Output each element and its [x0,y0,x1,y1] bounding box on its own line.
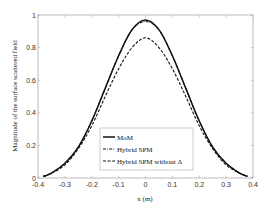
y-tick-label: 0.4 [26,109,36,116]
x-tick-label: 0.4 [248,181,258,188]
legend-label: Hybrid SPM [117,146,153,154]
y-tick-label: 0.8 [26,44,36,51]
x-tick-label: 0.2 [194,181,204,188]
y-tick-label: 1 [32,12,36,19]
legend-label: Hybrid SPM without Δ [117,158,182,166]
x-tick-label: 0.3 [221,181,231,188]
x-tick-label: 0.1 [168,181,178,188]
x-axis-title: x (m) [137,195,153,203]
legend-label: MoM [117,134,134,142]
line-chart: -0.4-0.3-0.2-0.100.10.20.30.400.20.40.60… [0,0,270,206]
x-tick-label: -0.4 [32,181,44,188]
y-tick-label: 0.2 [26,142,36,149]
x-tick-label: 0 [144,181,148,188]
y-tick-label: 0.6 [26,77,36,84]
legend: MoMHybrid SPMHybrid SPM without Δ [100,128,193,170]
x-tick-label: -0.2 [86,181,98,188]
y-tick-label: 0 [32,175,36,182]
x-tick-label: -0.3 [59,181,71,188]
y-axis-title: Magnitude of the surface scattered field [11,40,19,152]
x-tick-label: -0.1 [113,181,125,188]
